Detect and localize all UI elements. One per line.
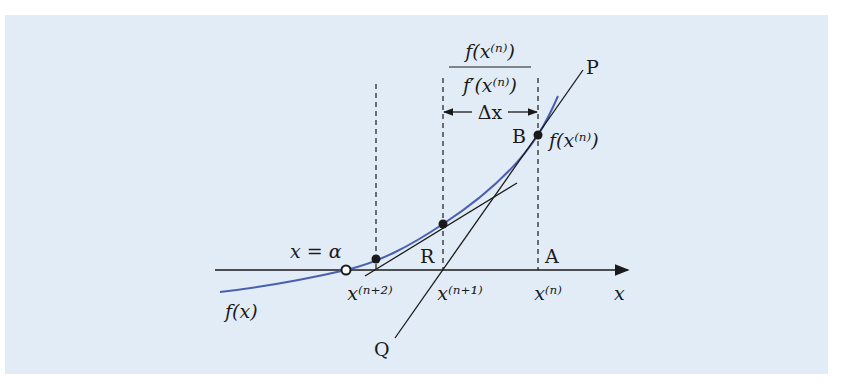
point-B	[534, 131, 543, 140]
point-n2	[372, 255, 381, 264]
label-fraction-num: f(x⁽ⁿ⁾)	[463, 40, 515, 62]
label-B: B	[512, 125, 526, 147]
label-f-x: f(x)	[223, 300, 258, 322]
label-x-n2: x⁽ⁿ⁺²⁾	[347, 282, 393, 304]
label-x-axis: x	[614, 282, 625, 304]
label-x-n1: x⁽ⁿ⁺¹⁾	[437, 282, 483, 304]
curve-f	[220, 96, 558, 292]
label-delta-x: Δx	[478, 101, 503, 123]
label-fraction-den: f′(x⁽ⁿ⁾)	[461, 74, 517, 96]
label-f-xn: f(x⁽ⁿ⁾)	[547, 129, 599, 151]
label-Q: Q	[374, 338, 390, 360]
label-x-n: x⁽ⁿ⁾	[534, 282, 562, 304]
tangent-second	[365, 183, 517, 276]
point-n1	[439, 220, 448, 229]
label-A: A	[544, 245, 559, 267]
root-point	[342, 266, 351, 275]
label-x-alpha: x = α	[290, 240, 342, 262]
label-R: R	[420, 245, 435, 267]
newton-method-diagram: f(x⁽ⁿ⁾) f′(x⁽ⁿ⁾) Δx P B f(x⁽ⁿ⁾) x = α R …	[0, 0, 843, 388]
label-P: P	[586, 56, 599, 78]
